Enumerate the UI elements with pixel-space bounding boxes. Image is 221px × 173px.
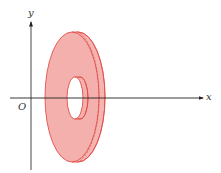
washer-diagram <box>0 0 221 173</box>
y-axis-label: y <box>28 7 34 18</box>
origin-label: O <box>18 101 26 112</box>
washer-solid <box>45 32 105 162</box>
x-axis-label: x <box>206 91 212 102</box>
